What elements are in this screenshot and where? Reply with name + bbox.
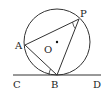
chord-pb — [57, 19, 79, 75]
label-b: B — [51, 79, 58, 90]
geometry-diagram: A P O C B D — [0, 0, 109, 93]
angle-mark-p — [73, 22, 76, 28]
chord-ap — [25, 19, 79, 45]
label-c: C — [13, 79, 21, 90]
label-d: D — [93, 79, 101, 90]
label-a: A — [14, 40, 23, 51]
center-dot-o — [56, 41, 58, 43]
label-o: O — [44, 44, 52, 55]
label-p: P — [80, 8, 87, 19]
diagram-canvas: A P O C B D — [0, 0, 109, 93]
